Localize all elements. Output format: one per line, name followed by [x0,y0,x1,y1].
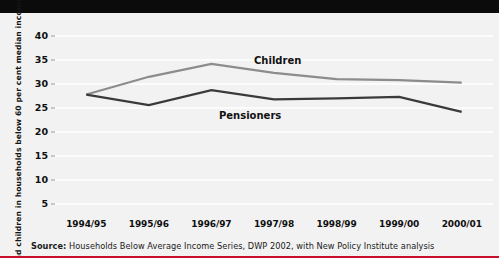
x-tick-label: 1997/98 [243,219,306,233]
source-note: Source: Households Below Average Income … [31,241,434,251]
source-prefix: Source: [31,241,66,251]
y-tick-label: 15 [35,150,48,161]
x-tick-label: 2000/01 [430,219,493,233]
chart-figure: Proportion of pensioners and children in… [0,0,499,258]
source-text: Households Below Average Income Series, … [69,241,434,251]
x-tick-label: 1994/95 [55,219,118,233]
x-tick-label: 1999/00 [368,219,431,233]
series-label-children: Children [254,55,301,66]
y-tick-label: 5 [41,198,48,209]
y-tick-labels: 510152025303540 [35,30,49,209]
x-tick-label: 1996/97 [180,219,243,233]
series-label-pensioners: Pensioners [219,110,281,121]
y-tick-label: 35 [35,54,48,65]
y-tick-label: 40 [35,30,49,41]
x-tick-label: 1998/99 [305,219,368,233]
y-tick-label: 25 [35,102,48,113]
y-tick-label: 10 [35,174,49,185]
x-axis-tick-labels: 1994/951995/961996/971997/981998/991999/… [55,219,493,233]
x-tick-label: 1995/96 [118,219,181,233]
y-tick-label: 20 [35,126,49,137]
y-tick-label: 30 [35,78,49,89]
